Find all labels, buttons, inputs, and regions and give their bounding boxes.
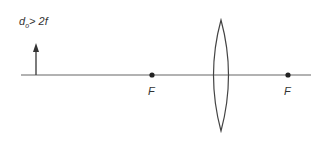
condition-rest: > 2f [29,15,49,27]
focal-point-left [149,72,154,77]
object-arrow-icon [33,43,39,75]
lens-diagram: F F do> 2f [0,0,320,142]
diagram-canvas: F F do> 2f [0,0,320,142]
focal-point-right [285,72,290,77]
focal-label-left: F [148,85,156,97]
condition-label: do> 2f [19,15,49,29]
focal-label-right: F [284,85,292,97]
